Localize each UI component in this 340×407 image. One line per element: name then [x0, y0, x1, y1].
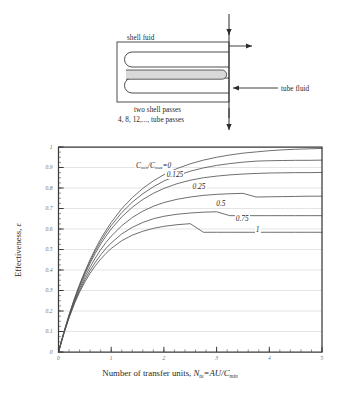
y-tick-label: 0.5 [0, 246, 53, 252]
y-tick-label: 1 [0, 144, 53, 150]
curve-label-Cmin-Cmax-0: Cmin/Cmax=0 [135, 161, 173, 170]
curve-label-0.125: 0.125 [165, 170, 184, 179]
x-tick-label: 0 [49, 355, 69, 361]
x-tick-label: 1 [101, 355, 121, 361]
curve-0.5 [59, 193, 323, 352]
curve-Cmin-Cmax-0 [59, 148, 323, 352]
x-tick-label: 3 [207, 355, 227, 361]
tube-return-bend [126, 70, 227, 79]
tube-passes-caption: 4, 8, 12,..., tube passes [118, 116, 184, 124]
shell-fluid-label: shell fuid [127, 34, 154, 42]
x-tick-label: 5 [312, 355, 332, 361]
curve-0.125 [59, 160, 323, 352]
tube-fluid-label: tube fluid [281, 85, 309, 93]
curve-label-0.5: 0.5 [215, 199, 227, 208]
x-tick-label: 2 [154, 355, 174, 361]
y-tick-label: 0.7 [0, 205, 53, 211]
curve-0.75 [59, 212, 323, 352]
heat-exchanger-schematic: shell fuid tube fluid two shell passes 4… [0, 0, 340, 140]
curve-1 [59, 224, 323, 352]
y-tick-label: 0.2 [0, 308, 53, 314]
x-axis-title: Number of transfer units, Ntu=AU/Cmin [0, 368, 340, 378]
shell-passes-caption: two shell passes [134, 106, 181, 114]
y-tick-label: 0.9 [0, 164, 53, 170]
curve-label-1: 1 [255, 225, 261, 234]
tube-pass-lower [125, 78, 230, 93]
y-tick-label: 0 [0, 349, 53, 355]
y-tick-label: 0.1 [0, 328, 53, 334]
y-tick-label: 0.8 [0, 185, 53, 191]
curve-label-0.75: 0.75 [235, 214, 250, 223]
tube-pass-upper [125, 52, 229, 67]
y-tick-label: 0.4 [0, 267, 53, 273]
effectiveness-ntu-chart: Effectiveness, ε Number of transfer unit… [0, 138, 340, 378]
y-tick-label: 0.3 [0, 287, 53, 293]
x-tick-label: 4 [259, 355, 279, 361]
curve-label-0.25: 0.25 [191, 182, 206, 191]
y-tick-label: 0.6 [0, 226, 53, 232]
